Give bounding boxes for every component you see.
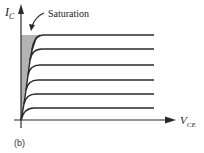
axes [14,4,176,128]
curve-2 [30,49,154,60]
y-axis-arrow-icon [18,4,24,14]
x-axis-label: VCE [180,114,196,129]
curve-3 [28,65,154,75]
y-axis-label: IC [4,5,15,21]
saturation-pointer-arrow [32,13,44,26]
curve-5 [24,94,154,104]
saturation-label: Saturation [48,8,89,19]
saturation-pointer-arrowhead-icon [29,24,35,31]
figure-caption: (b) [14,138,25,148]
curve-6 [21,108,154,120]
curve-1 [32,35,154,50]
curve-4 [26,80,154,90]
bjt-output-characteristics: IC Saturation VCE (b) [0,0,204,153]
characteristic-curves [21,35,154,120]
x-axis-arrow-icon [165,117,176,124]
